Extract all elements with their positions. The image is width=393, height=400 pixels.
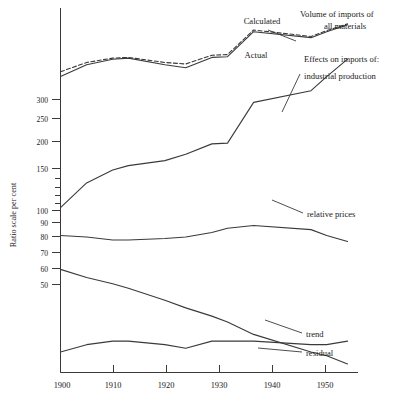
- y-axis-ticks: [52, 100, 60, 285]
- annotation-relative-prices: relative prices: [307, 209, 356, 219]
- x-tick-label: 1910: [105, 381, 122, 390]
- y-tick-label: 60: [40, 265, 48, 274]
- y-tick-label: 150: [37, 165, 49, 174]
- annotation-residual: residual: [306, 348, 334, 358]
- y-tick-label: 90: [40, 219, 48, 228]
- annotation-industrial-production: industrial production: [304, 71, 377, 81]
- series-line-calculated: [61, 24, 348, 72]
- y-axis-tick-labels: 300 250 200 150 100 90 80 70 60 50: [37, 96, 49, 290]
- series-line-trend: [61, 269, 348, 364]
- annotations: Calculated Actual Volume of imports of a…: [244, 9, 379, 358]
- leader-trend: [265, 320, 302, 333]
- y-tick-label: 300: [37, 96, 49, 105]
- annotation-effects-line1: Effects on imports of:: [304, 54, 379, 64]
- series-line-actual: [61, 25, 348, 77]
- x-tick-label: 1940: [264, 381, 281, 390]
- y-tick-label: 100: [37, 207, 49, 216]
- annotation-calculated: Calculated: [244, 16, 281, 26]
- x-tick-label: 1920: [158, 381, 175, 390]
- y-axis-title: Ratio scale per cent: [9, 182, 18, 247]
- y-tick-label: 70: [40, 249, 48, 258]
- x-tick-label: 1930: [211, 381, 228, 390]
- leader-residual: [258, 348, 302, 352]
- series-line-relative-prices: [61, 225, 348, 241]
- x-axis-tick-labels: 1900 1910 1920 1930 1940 1950: [54, 381, 334, 390]
- annotation-trend: trend: [306, 329, 324, 339]
- x-tick-label: 1900: [54, 381, 71, 390]
- annotation-volume-imports-line2: all materials: [324, 21, 367, 31]
- x-axis-ticks: [61, 365, 326, 373]
- series-line-industrial-production: [61, 59, 348, 207]
- x-tick-label: 1950: [317, 381, 334, 390]
- y-tick-label: 250: [37, 115, 49, 124]
- chart-figure: 300 250 200 150 100 90 80 70 60 50 Ratio…: [0, 0, 393, 400]
- y-tick-label: 80: [40, 233, 48, 242]
- annotation-volume-imports-line1: Volume of imports of: [300, 9, 374, 19]
- leader-relative-prices: [272, 200, 303, 213]
- annotation-leaders: [258, 30, 303, 352]
- annotation-actual: Actual: [245, 50, 269, 60]
- y-tick-label: 50: [40, 281, 48, 290]
- chart-canvas: 300 250 200 150 100 90 80 70 60 50 Ratio…: [0, 0, 393, 400]
- y-tick-label: 200: [37, 138, 49, 147]
